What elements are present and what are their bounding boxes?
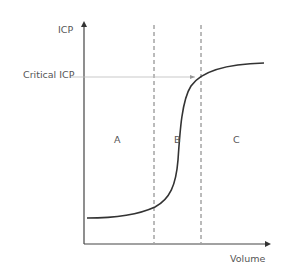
region-a-label: A — [114, 135, 121, 145]
region-b-label: B — [174, 135, 181, 145]
diagram-canvas — [0, 0, 293, 277]
region-c-label: C — [233, 135, 240, 145]
critical-icp-label: Critical ICP — [23, 70, 74, 80]
x-axis-label: Volume — [230, 254, 265, 264]
y-axis-label: ICP — [58, 25, 73, 35]
icp-volume-diagram: ICP Critical ICP A B C Volume — [0, 0, 293, 277]
